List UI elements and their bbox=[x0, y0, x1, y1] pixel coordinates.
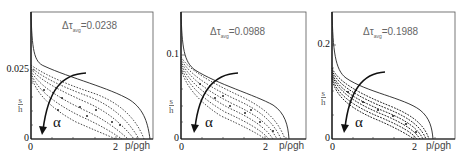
ytick-zero-1: 0 bbox=[0, 132, 29, 143]
annotation-prefix: Δτ bbox=[62, 20, 73, 31]
annotation-value: =0.0238 bbox=[81, 20, 117, 31]
ytick-zero-2: 0 bbox=[155, 132, 179, 143]
y-label-denominator: h bbox=[321, 97, 326, 107]
chart-panel-2: Δτavg=0.0988 0.1 0 0 2 p/ρgh s h α bbox=[155, 0, 310, 157]
y-label-denominator: h bbox=[18, 104, 23, 114]
xtick-two-2: 2 bbox=[263, 141, 268, 152]
annotation-delta-tau-3: Δτavg=0.1988 bbox=[363, 26, 418, 39]
xtick-zero-1: 0 bbox=[28, 141, 33, 152]
annotation-prefix: Δτ bbox=[363, 26, 374, 37]
annotation-sub: avg bbox=[374, 33, 382, 39]
ytick-zero-3: 0 bbox=[308, 132, 330, 143]
ytick-top-1: 0.025 bbox=[0, 63, 29, 74]
xtick-zero-2: 0 bbox=[179, 141, 184, 152]
annotation-sub: avg bbox=[221, 33, 229, 39]
chart-panel-1: Δτavg=0.0238 0.025 0 0 2 p/ρgh s h α bbox=[0, 0, 155, 157]
chart-panel-3: Δτavg=0.1988 0.2 0 0 2 p/ρgh s h α bbox=[308, 0, 463, 157]
annotation-delta-tau-1: Δτavg=0.0238 bbox=[62, 20, 117, 33]
ytick-top-2: 0.1 bbox=[155, 48, 179, 59]
annotation-value: =0.0988 bbox=[229, 26, 265, 37]
x-axis-label-3: p/ρgh bbox=[426, 140, 451, 151]
alpha-arrow-1 bbox=[43, 73, 86, 130]
y-axis-label-1: s h bbox=[18, 96, 23, 113]
annotation-sub: avg bbox=[73, 27, 81, 33]
y-axis-label-2: s h bbox=[169, 97, 174, 114]
alpha-label-3: α bbox=[355, 114, 363, 131]
x-axis-label-1: p/ρgh bbox=[125, 140, 150, 151]
xtick-zero-3: 0 bbox=[330, 141, 335, 152]
xtick-two-1: 2 bbox=[113, 141, 118, 152]
alpha-arrow-3 bbox=[345, 72, 385, 128]
y-axis-label-3: s h bbox=[321, 89, 326, 106]
plot-area-3 bbox=[308, 0, 463, 157]
annotation-value: =0.1988 bbox=[382, 26, 418, 37]
ytick-top-3: 0.2 bbox=[308, 38, 330, 49]
xtick-two-3: 2 bbox=[412, 141, 417, 152]
annotation-delta-tau-2: Δτavg=0.0988 bbox=[210, 26, 265, 39]
y-label-denominator: h bbox=[169, 105, 174, 115]
annotation-prefix: Δτ bbox=[210, 26, 221, 37]
x-axis-label-2: p/ρgh bbox=[279, 140, 304, 151]
alpha-label-1: α bbox=[53, 114, 61, 131]
alpha-label-2: α bbox=[205, 114, 213, 131]
